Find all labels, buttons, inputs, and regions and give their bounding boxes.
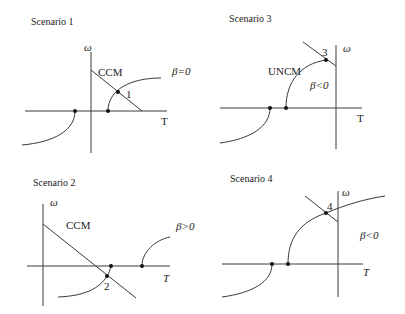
axis-point (268, 106, 272, 110)
ccm-label: CCM (98, 66, 123, 78)
t-axis-label: T (163, 272, 170, 284)
axis-point (109, 264, 113, 268)
omega-axis-label: ω (342, 186, 350, 198)
axis-point (284, 106, 288, 110)
point-label: 1 (126, 88, 132, 100)
upper-branch-curve (108, 78, 161, 111)
intersection-point-3 (324, 58, 328, 62)
lower-branch-curve (222, 264, 272, 297)
axis-point (73, 109, 77, 113)
lower-branch-curve (220, 108, 270, 143)
t-axis-label: T (161, 115, 168, 127)
uncm-label: UNCM (268, 65, 301, 77)
omega-axis-label: ω (84, 41, 92, 53)
beta-label: β<0 (359, 229, 379, 241)
scenario-diagrams: Scenario 1 ω T CCM 1 β=0 Scenario 3 ω T … (0, 0, 405, 314)
lower-branch-curve (22, 111, 75, 145)
intersection-point-2 (105, 274, 109, 278)
point-label: 3 (322, 46, 328, 58)
axis-point (286, 262, 290, 266)
point-label: 2 (104, 280, 110, 292)
boundary-line (305, 196, 338, 222)
axis-point (106, 109, 110, 113)
scenario-1-panel: Scenario 1 ω T CCM 1 β=0 (22, 16, 191, 153)
scenario-3-title: Scenario 3 (229, 13, 272, 24)
beta-label: β<0 (309, 79, 329, 91)
axis-point (140, 264, 144, 268)
boundary-line (303, 42, 336, 66)
t-axis-label: T (363, 266, 370, 278)
upper-branch-curve (142, 237, 170, 266)
point-label: 4 (327, 200, 333, 212)
scenario-2-panel: Scenario 2 ω T CCM 2 β>0 (27, 177, 195, 306)
omega-axis-label: ω (343, 42, 351, 54)
axis-point (270, 262, 274, 266)
scenario-2-title: Scenario 2 (33, 177, 76, 188)
scenario-4-panel: Scenario 4 ω T 4 β<0 (222, 173, 385, 297)
intersection-point-1 (116, 90, 120, 94)
beta-label: β>0 (175, 220, 195, 232)
beta-label: β=0 (171, 65, 191, 77)
scenario-4-title: Scenario 4 (230, 173, 273, 184)
omega-axis-label: ω (50, 196, 58, 208)
t-axis-label: T (357, 112, 364, 124)
scenario-1-title: Scenario 1 (31, 16, 74, 27)
ccm-line (43, 224, 136, 298)
scenario-3-panel: Scenario 3 ω T 3 UNCM β<0 (220, 13, 364, 149)
ccm-label: CCM (66, 219, 91, 231)
